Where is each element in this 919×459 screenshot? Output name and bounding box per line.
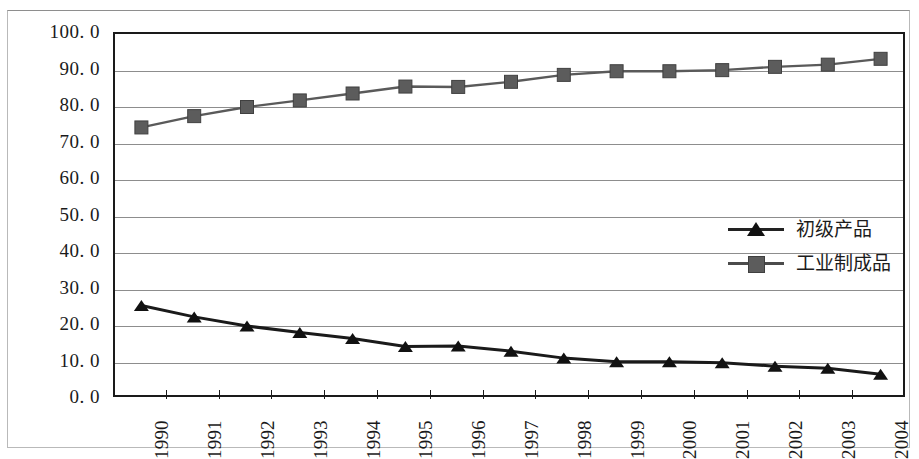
x-axis-tick-label: 1996: [469, 401, 488, 459]
x-axis-tick-label: 1997: [522, 401, 541, 459]
legend-sample-square: [728, 252, 784, 274]
data-point-square-marker: [399, 80, 412, 93]
x-axis-tick-mark: [219, 390, 220, 399]
data-point-square-marker: [505, 75, 518, 88]
x-axis-tick-label: 2003: [839, 401, 858, 459]
y-axis-tick-label: 90. 0: [0, 59, 100, 78]
x-axis-tick-label: 1992: [258, 401, 277, 459]
x-axis-tick-mark: [535, 390, 536, 399]
x-axis-tick-mark: [377, 390, 378, 399]
plot-area: 初级产品 工业制成品: [113, 32, 905, 397]
x-axis-tick-label: 2002: [786, 401, 805, 459]
data-point-square-marker: [293, 94, 306, 107]
data-point-square-marker: [241, 101, 254, 114]
y-axis-tick-label: 0. 0: [0, 387, 100, 406]
data-point-square-marker: [610, 65, 623, 78]
legend-label-manufactured-goods: 工业制成品: [796, 252, 891, 274]
x-axis-tick-label: 1998: [575, 401, 594, 459]
x-axis-tick-mark: [852, 390, 853, 399]
x-axis-tick-label: 1990: [152, 401, 171, 459]
data-point-square-marker: [821, 58, 834, 71]
y-axis-tick-label: 20. 0: [0, 314, 100, 333]
data-point-square-marker: [452, 80, 465, 93]
x-axis-tick-mark: [166, 390, 167, 399]
data-point-square-marker: [346, 87, 359, 100]
y-axis-tick-label: 60. 0: [0, 168, 100, 187]
legend-label-primary-products: 初级产品: [796, 218, 872, 240]
x-axis-tick-label: 1991: [205, 401, 224, 459]
x-axis-tick-mark: [799, 390, 800, 399]
y-axis-tick-label: 50. 0: [0, 205, 100, 224]
data-point-square-marker: [135, 121, 148, 134]
x-axis-tick-mark: [430, 390, 431, 399]
y-axis-tick-label: 80. 0: [0, 95, 100, 114]
x-axis-tick-mark: [271, 390, 272, 399]
x-axis-tick-mark: [694, 390, 695, 399]
x-axis-tick-labels: 1990199119921993199419951996199719981999…: [113, 399, 905, 457]
data-point-square-marker: [769, 60, 782, 73]
legend-item-primary-products: 初级产品: [728, 212, 872, 246]
x-axis-tick-label: 1993: [311, 401, 330, 459]
legend-sample-triangle: [728, 218, 784, 240]
y-axis-tick-label: 100. 0: [0, 22, 100, 41]
x-axis-tick-mark: [588, 390, 589, 399]
x-axis-tick-mark: [483, 390, 484, 399]
x-axis-tick-mark: [641, 390, 642, 399]
x-axis-tick-label: 2000: [680, 401, 699, 459]
x-axis-tick-mark: [747, 390, 748, 399]
data-point-square-marker: [663, 65, 676, 78]
legend-item-manufactured-goods: 工业制成品: [728, 246, 891, 280]
chart-legend: 初级产品 工业制成品: [728, 212, 919, 284]
x-axis-tick-label: 2001: [733, 401, 752, 459]
data-point-square-marker: [188, 110, 201, 123]
x-axis-tick-label: 1995: [416, 401, 435, 459]
x-axis-tick-label: 1994: [364, 401, 383, 459]
data-point-square-marker: [557, 68, 570, 81]
data-point-square-marker: [716, 64, 729, 77]
x-axis-tick-label: 2004: [892, 401, 911, 459]
series-line: [141, 306, 880, 375]
y-axis-tick-labels: 100. 090. 080. 070. 060. 050. 040. 030. …: [0, 32, 103, 397]
x-axis-tick-mark: [324, 390, 325, 399]
y-axis-tick-label: 10. 0: [0, 351, 100, 370]
triangle-marker-icon: [747, 222, 765, 236]
y-axis-tick-label: 30. 0: [0, 278, 100, 297]
data-point-square-marker: [874, 52, 887, 65]
y-axis-tick-label: 40. 0: [0, 241, 100, 260]
y-axis-tick-label: 70. 0: [0, 132, 100, 151]
x-axis-tick-label: 1999: [628, 401, 647, 459]
square-marker-icon: [748, 256, 765, 273]
